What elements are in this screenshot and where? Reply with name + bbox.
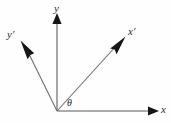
coordinate-rotation-figure: y x y′ x′ θ [0,0,171,123]
y-axis-label: y [54,3,59,14]
y-prime-axis-arrowhead-icon [21,41,35,60]
y-axis-arrowhead-icon [52,13,61,24]
axes-drawing [0,0,171,123]
x-axis-label: x [161,104,166,115]
rotation-angle-label: θ [67,98,72,108]
x-prime-axis-label: x′ [128,26,135,37]
y-prime-axis-label: y′ [7,29,14,40]
x-prime-axis-arrowhead-icon [110,37,125,55]
x-axis-arrowhead-icon [148,106,159,115]
y-prime-axis-line [29,54,57,111]
x-prime-axis-line [57,45,117,111]
